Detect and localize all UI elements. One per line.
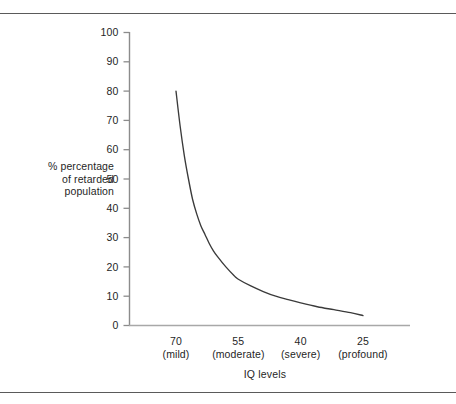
x-tick-value-labels: 70554025 — [170, 335, 369, 347]
y-tick-label: 60 — [106, 143, 118, 155]
y-tick-label: 10 — [106, 290, 118, 302]
y-tick-label: 0 — [112, 319, 118, 331]
x-axis-title: IQ levels — [244, 368, 287, 380]
y-tick-label: 40 — [106, 202, 118, 214]
x-tick-label: 40 — [295, 335, 307, 347]
chart-plot: 0102030405060708090100 70554025 (mild)(m… — [0, 0, 456, 404]
x-tick-category-label: (profound) — [338, 348, 387, 360]
x-axis-group: 70554025 (mild)(moderate)(severe)(profou… — [129, 326, 410, 361]
x-tick-category-label: (moderate) — [212, 348, 264, 360]
y-axis-title-line: % percentage — [48, 160, 114, 172]
y-axis-title-line: population — [65, 185, 115, 197]
y-tick-label: 100 — [100, 26, 118, 38]
data-curve-line — [176, 91, 363, 315]
y-tick-label: 70 — [106, 114, 118, 126]
chart-figure: 0102030405060708090100 70554025 (mild)(m… — [0, 0, 456, 404]
x-tick-category-label: (severe) — [281, 348, 320, 360]
y-tick-label: 30 — [106, 231, 118, 243]
x-tick-label: 70 — [170, 335, 182, 347]
y-tick-label: 80 — [106, 85, 118, 97]
y-axis-title-line: of retarded — [62, 173, 114, 185]
x-tick-category-label: (mild) — [163, 348, 190, 360]
x-tick-label: 25 — [357, 335, 369, 347]
y-tick-label: 20 — [106, 261, 118, 273]
y-axis-title: % percentageof retardedpopulation — [48, 160, 114, 197]
x-tick-label: 55 — [232, 335, 244, 347]
x-tick-category-labels: (mild)(moderate)(severe)(profound) — [163, 348, 388, 360]
y-tick-label: 90 — [106, 55, 118, 67]
y-tick-marks — [124, 33, 130, 326]
